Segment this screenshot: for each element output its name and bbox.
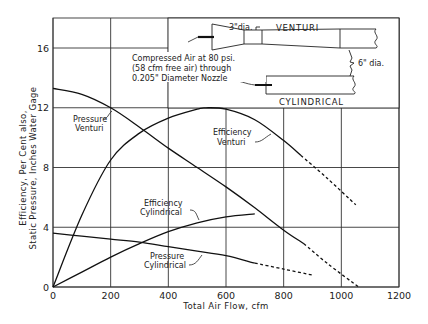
nozzle-diagram-inset: 3"dia. VENTURI 6" dia. CYLINDRICAL Compr… (130, 18, 399, 108)
curve-labels: Pressure Venturi Efficiency Venturi Effi… (73, 111, 271, 270)
y-axis-title-line-2: Static Pressure, Inches Water Gage (28, 87, 38, 250)
label-efficiency-venturi-1: Efficiency (213, 128, 252, 137)
note-line-3: 0.205" Diameter Nozzle (132, 74, 228, 83)
leader-efficiency-cylindrical (190, 210, 199, 220)
x-tick-label: 400 (159, 290, 177, 301)
x-tick-label: 1000 (329, 290, 353, 301)
y-axis-title-line-1: Efficiency, Per Cent also, (18, 110, 28, 226)
note-line-2: (58 cfm free air) through (132, 64, 231, 73)
leader-efficiency-venturi (255, 134, 271, 142)
label-pressure-venturi-2: Venturi (75, 124, 104, 133)
label-efficiency-cylindrical-1: Efficiency (144, 199, 183, 208)
label-pressure-venturi-1: Pressure (73, 115, 107, 124)
venturi-label: VENTURI (276, 23, 319, 33)
x-tick-label: 200 (102, 290, 120, 301)
label-pressure-cylindrical-2: Cylindrical (144, 261, 186, 270)
x-tick-label: 600 (217, 290, 235, 301)
y-tick-label: 8 (43, 162, 49, 173)
label-pressure-cylindrical-1: Pressure (150, 252, 184, 261)
x-axis-title: Total Air Flow, cfm (182, 301, 268, 311)
x-tick-label: 0 (50, 290, 56, 301)
y-tick-label: 0 (43, 282, 49, 293)
note-line-1: Compressed Air at 80 psi. (132, 54, 235, 63)
leader-pressure-cylindrical (189, 255, 202, 265)
x-tick-label: 1200 (387, 290, 411, 301)
y-tick-label: 12 (37, 102, 49, 113)
pipe-dia-label: 6" dia. (358, 59, 384, 68)
y-tick-label: 16 (37, 43, 49, 54)
curve-efficiency-cylindrical (53, 214, 255, 287)
x-tick-label: 800 (275, 290, 293, 301)
y-tick-label: 4 (43, 222, 49, 233)
curve-pressure-venturi (53, 88, 304, 243)
cylindrical-label: CYLINDRICAL (279, 97, 344, 107)
curve-efficiency-venturi-extrapolated (301, 156, 356, 205)
label-efficiency-cylindrical-2: Cylindrical (140, 208, 182, 217)
curve-pressure-venturi-extrapolated (304, 244, 359, 287)
label-efficiency-venturi-2: Venturi (217, 138, 246, 147)
throat-dia-label: 3"dia. (229, 23, 253, 32)
efficiency-pressure-chart: 3"dia. VENTURI 6" dia. CYLINDRICAL Compr… (0, 0, 428, 324)
